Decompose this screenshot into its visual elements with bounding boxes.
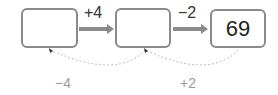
inverse-arcs bbox=[0, 0, 278, 95]
inverse-op-2: +2 bbox=[180, 75, 196, 91]
inverse-op-1: −4 bbox=[55, 75, 71, 91]
